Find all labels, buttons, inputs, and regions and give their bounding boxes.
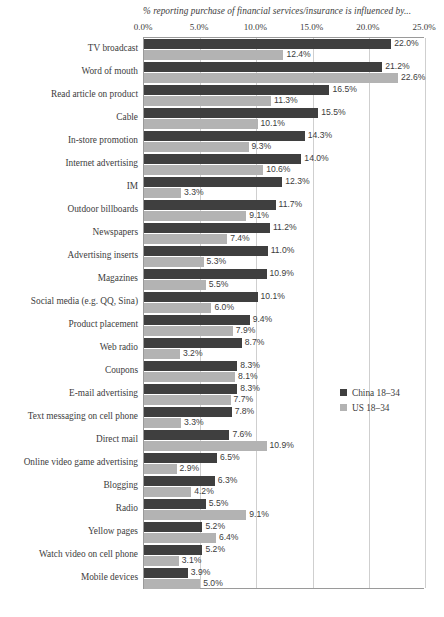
category-label: In-store promotion bbox=[68, 135, 138, 145]
bar-china: 11.7% bbox=[144, 200, 276, 210]
bar-fill bbox=[144, 85, 329, 95]
bar-china: 8.3% bbox=[144, 361, 237, 371]
bar-china: 7.6% bbox=[144, 430, 229, 440]
bar-fill bbox=[144, 234, 227, 244]
bar-china: 3.9% bbox=[144, 568, 188, 578]
chart-rows: TV broadcast22.0%12.4%Word of mouth21.2%… bbox=[0, 37, 444, 589]
bar-fill bbox=[144, 533, 216, 543]
category-label: IM bbox=[127, 181, 138, 191]
bar-value-label: 8.7% bbox=[245, 337, 265, 347]
bar-us: 10.6% bbox=[144, 165, 263, 175]
bar-china: 5.2% bbox=[144, 545, 202, 555]
bar-fill bbox=[144, 62, 382, 72]
bar-fill bbox=[144, 441, 267, 451]
chart-row: Direct mail7.6%10.9% bbox=[0, 428, 444, 451]
legend-swatch-icon bbox=[340, 404, 347, 411]
bar-fill bbox=[144, 510, 246, 520]
legend-label: US 18–34 bbox=[352, 403, 389, 413]
category-label: Blogging bbox=[103, 480, 138, 490]
bar-us: 5.0% bbox=[144, 579, 200, 589]
bar-value-label: 15.5% bbox=[321, 107, 345, 117]
chart-row: Magazines10.9%5.5% bbox=[0, 267, 444, 290]
legend-swatch-icon bbox=[340, 389, 347, 396]
bar-fill bbox=[144, 131, 305, 141]
bar-china: 12.3% bbox=[144, 177, 282, 187]
bar-fill bbox=[144, 292, 258, 302]
bar-china: 15.5% bbox=[144, 108, 318, 118]
bar-value-label: 14.3% bbox=[308, 130, 332, 140]
bar-fill bbox=[144, 464, 177, 474]
category-label: Internet advertising bbox=[65, 158, 138, 168]
bar-fill bbox=[144, 39, 391, 49]
bar-fill bbox=[144, 395, 231, 405]
bar-fill bbox=[144, 407, 232, 417]
x-axis-tick-2: 10.0% bbox=[244, 22, 267, 32]
chart-row: Watch video on cell phone5.2%3.1% bbox=[0, 543, 444, 566]
x-axis-tick-4: 20.0% bbox=[356, 22, 379, 32]
bar-value-label: 5.2% bbox=[205, 521, 225, 531]
bar-us: 22.6% bbox=[144, 73, 398, 83]
bar-fill bbox=[144, 487, 191, 497]
bar-fill bbox=[144, 499, 206, 509]
bar-value-label: 3.3% bbox=[184, 187, 204, 197]
category-label: Text messaging on cell phone bbox=[28, 411, 138, 421]
bar-us: 8.1% bbox=[144, 372, 235, 382]
bar-value-label: 14.0% bbox=[304, 153, 328, 163]
bar-us: 9.1% bbox=[144, 211, 246, 221]
chart-row: Product placement9.4%7.9% bbox=[0, 313, 444, 336]
bar-china: 6.3% bbox=[144, 476, 215, 486]
bar-us: 2.9% bbox=[144, 464, 177, 474]
bar-value-label: 2.9% bbox=[180, 463, 200, 473]
bar-fill bbox=[144, 154, 301, 164]
bar-value-label: 22.6% bbox=[401, 72, 425, 82]
bar-china: 16.5% bbox=[144, 85, 329, 95]
chart-row: Cable15.5%10.1% bbox=[0, 106, 444, 129]
bar-us: 3.1% bbox=[144, 556, 179, 566]
bar-fill bbox=[144, 372, 235, 382]
bar-us: 9.1% bbox=[144, 510, 246, 520]
bar-value-label: 9.1% bbox=[249, 509, 269, 519]
legend-item-china[interactable]: China 18–34 bbox=[340, 385, 440, 400]
chart-row: In-store promotion14.3%9.3% bbox=[0, 129, 444, 152]
category-label: TV broadcast bbox=[88, 43, 138, 53]
legend-item-us[interactable]: US 18–34 bbox=[340, 400, 440, 415]
bar-china: 5.5% bbox=[144, 499, 206, 509]
bar-fill bbox=[144, 96, 271, 106]
category-label: Cable bbox=[116, 112, 138, 122]
bar-value-label: 6.0% bbox=[214, 302, 234, 312]
bar-china: 11.2% bbox=[144, 223, 270, 233]
bar-value-label: 4.2% bbox=[194, 486, 214, 496]
chart-row: Word of mouth21.2%22.6% bbox=[0, 60, 444, 83]
bar-value-label: 3.1% bbox=[182, 555, 202, 565]
bar-fill bbox=[144, 556, 179, 566]
bar-value-label: 11.7% bbox=[279, 199, 303, 209]
category-label: Yellow pages bbox=[88, 526, 138, 536]
category-label: Newspapers bbox=[93, 227, 138, 237]
bar-value-label: 5.0% bbox=[203, 578, 223, 588]
bar-china: 14.3% bbox=[144, 131, 305, 141]
bar-fill bbox=[144, 326, 233, 336]
bar-fill bbox=[144, 568, 188, 578]
bar-value-label: 10.1% bbox=[261, 118, 285, 128]
bar-fill bbox=[144, 200, 276, 210]
bar-fill bbox=[144, 269, 267, 279]
bar-chart: % reporting purchase of financial servic… bbox=[0, 0, 444, 617]
bar-fill bbox=[144, 211, 246, 221]
category-label: Magazines bbox=[98, 273, 138, 283]
bar-china: 8.3% bbox=[144, 384, 237, 394]
bar-china: 14.0% bbox=[144, 154, 301, 164]
bar-us: 6.0% bbox=[144, 303, 211, 313]
bar-value-label: 8.1% bbox=[238, 371, 258, 381]
bar-value-label: 10.9% bbox=[270, 440, 294, 450]
chart-row: Online video game advertising6.5%2.9% bbox=[0, 451, 444, 474]
category-label: Social media (e.g. QQ, Sina) bbox=[31, 296, 138, 306]
bar-us: 12.4% bbox=[144, 50, 283, 60]
bar-china: 8.7% bbox=[144, 338, 242, 348]
bar-value-label: 8.3% bbox=[240, 360, 260, 370]
bar-fill bbox=[144, 522, 202, 532]
bar-value-label: 9.3% bbox=[252, 141, 272, 151]
bar-value-label: 7.4% bbox=[230, 233, 250, 243]
bar-china: 11.0% bbox=[144, 246, 268, 256]
bar-fill bbox=[144, 453, 217, 463]
bar-us: 4.2% bbox=[144, 487, 191, 497]
